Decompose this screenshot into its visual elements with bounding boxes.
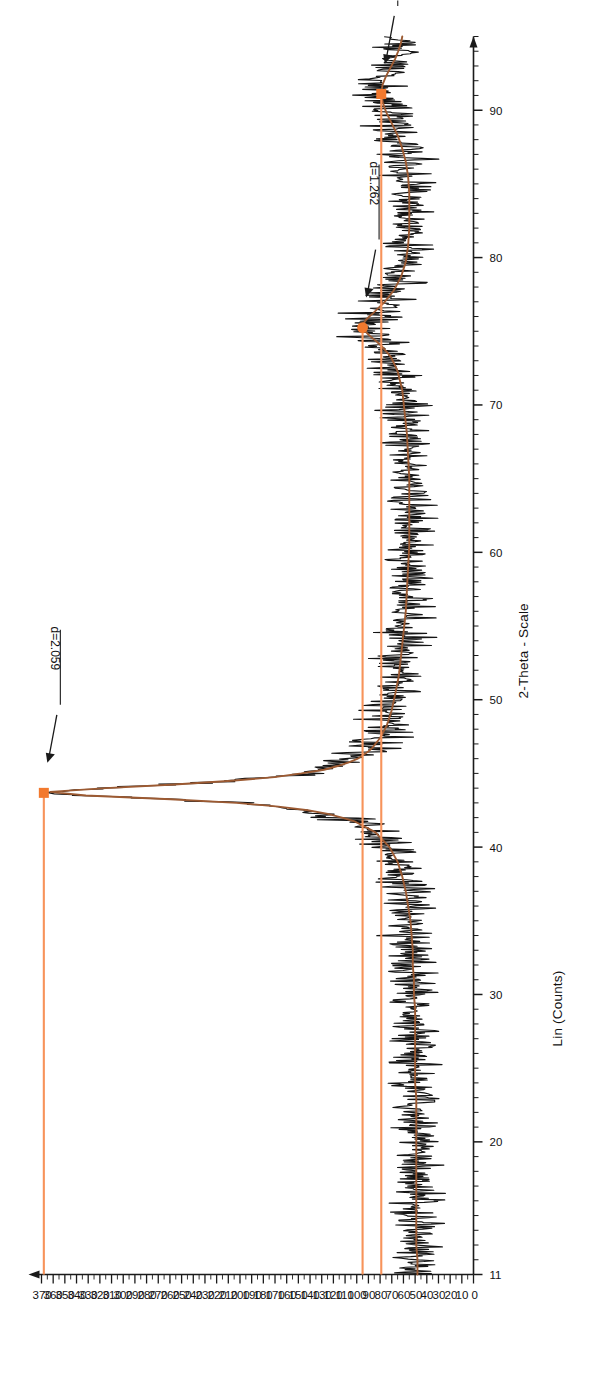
- y-tick-label: 0: [471, 1288, 477, 1300]
- x-tick-label: 11: [489, 1268, 501, 1280]
- diffractogram-plot: [0, 0, 595, 1398]
- y-tick-label: 80: [374, 1288, 387, 1300]
- chart-rotation-wrapper: 1120304050607080900102030405060708090100…: [0, 0, 595, 1398]
- peak-arrow: [48, 714, 56, 757]
- x-tick-label: 30: [489, 988, 502, 1000]
- x-tick-label: 50: [489, 693, 502, 705]
- y-tick-label: 60: [397, 1288, 410, 1300]
- peak-arrow: [367, 249, 375, 292]
- y-tick-label: 20: [444, 1288, 457, 1300]
- x-tick-label: 40: [489, 841, 502, 853]
- y-axis-title: Lin (Counts): [549, 970, 564, 1046]
- x-axis-title: 2-Theta - Scale: [515, 603, 530, 698]
- x-tick-label: 60: [489, 546, 502, 558]
- peak-marker: [376, 88, 386, 98]
- x-tick-label: 90: [489, 104, 502, 116]
- peak-marker: [38, 787, 48, 797]
- y-tick-label: 370: [32, 1288, 51, 1300]
- peak-arrow-head: [45, 752, 54, 762]
- peak-label: d=2.059: [47, 626, 61, 670]
- y-tick-label: 50: [409, 1288, 422, 1300]
- raw-counts-trace: [46, 36, 445, 1274]
- x-tick-label: 70: [489, 398, 502, 410]
- y-tick-label: 30: [432, 1288, 445, 1300]
- xrd-chart: 1120304050607080900102030405060708090100…: [0, 0, 595, 1398]
- peak-label: d=1.262: [366, 161, 380, 205]
- x-tick-label: 80: [489, 251, 502, 263]
- x-tick-label: 20: [489, 1135, 502, 1147]
